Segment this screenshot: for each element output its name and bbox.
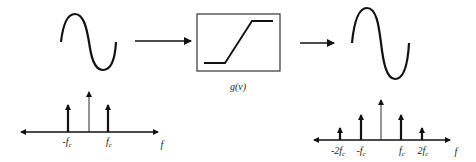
nonlinearity-curve <box>204 21 273 63</box>
label-subscript: c <box>402 150 405 158</box>
input-sine-wave <box>61 14 116 70</box>
label-subscript: c <box>69 141 72 149</box>
label-subscript: c <box>342 150 345 158</box>
output-spectrum <box>314 100 450 140</box>
input-spectrum <box>21 92 158 132</box>
nonlinearity-label: g(v) <box>230 82 246 92</box>
label-neg2fc-right: -2fc <box>331 146 345 158</box>
label-neg-fc-left: -fc <box>62 137 71 149</box>
label-text: 2f <box>418 145 426 156</box>
label-negfc-right: -fc <box>356 146 365 158</box>
label-fc-right: fc <box>399 146 405 158</box>
label-subscript: c <box>109 141 112 149</box>
label-subscript: c <box>425 150 428 158</box>
freq-axis-label-right: f <box>455 147 458 157</box>
output-sine-wave <box>352 8 409 79</box>
label-2fc-right: 2fc <box>418 146 429 158</box>
freq-axis-label-left: f <box>161 140 164 150</box>
label-text: -2f <box>331 145 342 156</box>
label-fc-left: fc <box>106 137 112 149</box>
label-subscript: c <box>363 150 366 158</box>
